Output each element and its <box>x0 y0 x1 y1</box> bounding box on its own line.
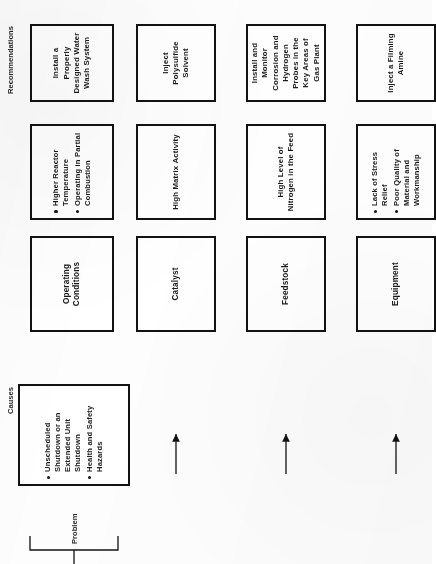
cause-category-feedstock: Feedstock <box>246 236 326 332</box>
cause-detail-text: High Matrix Activity <box>171 134 181 210</box>
row-label-causes: Causes <box>6 387 15 414</box>
problem-box: Unscheduled Shutdown or an Extended Unit… <box>18 384 130 486</box>
cause-detail-text: High Level of Nitrogen in the Feed <box>276 131 297 213</box>
recommendation-text: Inject a Filming Amine <box>386 31 407 95</box>
cause-category-label: Feedstock <box>281 263 291 305</box>
cause-detail-feedstock: High Level of Nitrogen in the Feed <box>246 124 326 220</box>
cause-detail-equipment: Lack of Stress Relief Poor Quality of Ma… <box>356 124 436 220</box>
cause-category-label: Operating Conditions <box>62 243 83 325</box>
cause-detail-bullet-list: Higher Reactor Temperature Operating in … <box>51 131 92 213</box>
cause-category-operating-conditions: Operating Conditions <box>30 236 114 332</box>
cause-category-catalyst: Catalyst <box>136 236 216 332</box>
cause-detail-bullet: Poor Quality of Material and Workmanship <box>392 131 422 213</box>
problem-bullet: Health and Safety Hazards <box>85 391 105 479</box>
cause-detail-bullet: Lack of Stress Relief <box>370 131 390 213</box>
recommendation-text: Inject Polysulfide Solvent <box>161 31 192 95</box>
cause-detail-bullet-list: Lack of Stress Relief Poor Quality of Ma… <box>370 131 421 213</box>
cause-detail-catalyst: High Matrix Activity <box>136 124 216 220</box>
row-label-recommendations: Recommendations <box>6 26 15 94</box>
recommendation-box-filming-amine: Inject a Filming Amine <box>356 24 436 102</box>
cause-detail-bullet: Operating in Partial Combustion <box>73 131 93 213</box>
recommendation-box-corrosion-probes: Install and Monitor Corrosion and Hydrog… <box>246 24 326 102</box>
recommendation-box-water-wash: Install a Properly Designed Water Wash S… <box>30 24 114 102</box>
cause-category-equipment: Equipment <box>356 236 436 332</box>
problem-bullet: Unscheduled Shutdown or an Extended Unit… <box>43 391 82 479</box>
cause-detail-bullet: Higher Reactor Temperature <box>51 131 71 213</box>
row-label-problem: Problem <box>70 514 79 544</box>
recommendation-text: Install and Monitor Corrosion and Hydrog… <box>250 31 322 95</box>
recommendation-box-polysulfide: Inject Polysulfide Solvent <box>136 24 216 102</box>
cause-category-label: Equipment <box>391 262 401 306</box>
cause-detail-operating-conditions: Higher Reactor Temperature Operating in … <box>30 124 114 220</box>
recommendation-text: Install a Properly Designed Water Wash S… <box>51 31 92 95</box>
problem-bullet-list: Unscheduled Shutdown or an Extended Unit… <box>43 391 104 479</box>
cause-category-label: Catalyst <box>171 267 181 300</box>
